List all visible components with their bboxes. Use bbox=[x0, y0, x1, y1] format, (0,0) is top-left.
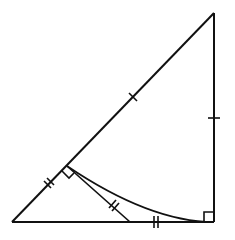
geometry-diagram bbox=[0, 0, 235, 240]
right-angle-marker-c bbox=[204, 212, 214, 222]
arc-dc bbox=[67, 166, 214, 222]
right-angle-marker-d bbox=[62, 171, 74, 178]
hypotenuse-ab bbox=[12, 13, 214, 222]
diagram-svg bbox=[0, 0, 235, 240]
perpendicular-de bbox=[67, 166, 130, 222]
